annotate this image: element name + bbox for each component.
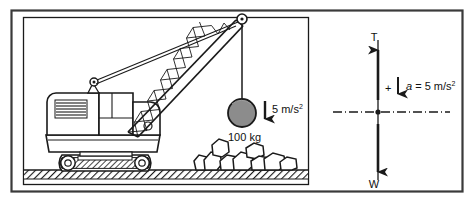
origin-point — [375, 109, 380, 114]
scene-acceleration-label: 5 m/s2 — [272, 103, 303, 115]
crane-house — [47, 93, 99, 135]
boom-tip-sheave — [237, 14, 247, 24]
load-mass-label: 100 kg — [228, 131, 261, 143]
suspended-load — [228, 99, 256, 127]
physics-figure: 100 kg 5 m/s2 — [0, 0, 475, 202]
figure-root: 100 kg 5 m/s2 — [0, 0, 475, 202]
sign-convention-label: + — [385, 82, 391, 94]
operator-cab — [99, 93, 133, 135]
weight-label: W — [369, 178, 380, 190]
radiator-grille — [55, 100, 87, 118]
crawler-track — [59, 155, 151, 171]
tension-label: T — [371, 31, 378, 43]
fbd-acceleration-label: a = 5 m/s2 — [406, 80, 456, 92]
